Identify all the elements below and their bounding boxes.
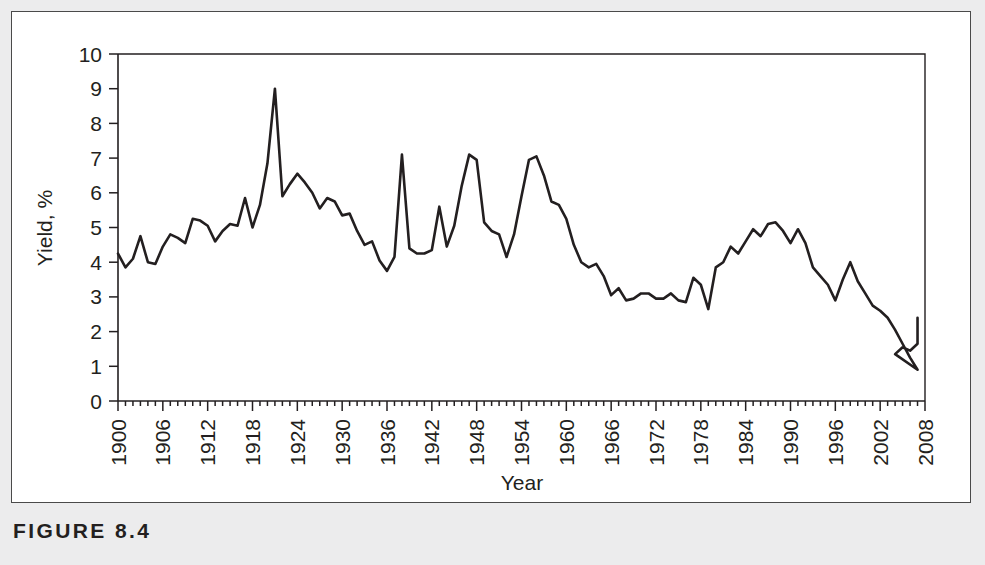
x-tick-label: 1996 (824, 419, 847, 466)
x-tick-label: 1990 (779, 419, 802, 466)
y-tick-label: 7 (90, 147, 102, 170)
y-axis: 012345678910 (79, 43, 118, 413)
x-tick-label: 1942 (420, 419, 443, 466)
data-series-yield (118, 89, 918, 370)
x-tick-label: 1960 (555, 419, 578, 466)
x-tick-label: 1948 (465, 419, 488, 466)
x-tick-label: 1900 (107, 419, 130, 466)
x-tick-label: 1966 (600, 419, 623, 466)
y-tick-label: 5 (90, 216, 102, 239)
y-tick-label: 3 (90, 285, 102, 308)
y-tick-label: 1 (90, 355, 102, 378)
y-tick-label: 2 (90, 320, 102, 343)
figure-caption: FIGURE 8.4 (13, 519, 151, 543)
x-axis: 1900190619121918192419301936194219481954… (107, 401, 937, 466)
x-tick-label: 1912 (196, 419, 219, 466)
y-tick-label: 0 (90, 390, 102, 413)
y-tick-label: 8 (90, 112, 102, 135)
x-tick-label: 2002 (869, 419, 892, 466)
chart-area: 012345678910 190019061912191819241930193… (12, 12, 972, 504)
x-tick-label: 1936 (376, 419, 399, 466)
plot-frame (118, 54, 925, 401)
x-axis-title: Year (501, 471, 543, 494)
x-tick-label: 1954 (510, 419, 533, 466)
x-tick-label: 1984 (734, 419, 757, 466)
y-tick-label: 9 (90, 77, 102, 100)
x-tick-label: 1924 (286, 419, 309, 466)
x-tick-label: 1978 (689, 419, 712, 466)
x-tick-label: 2008 (914, 419, 937, 466)
y-tick-label: 10 (79, 43, 102, 66)
x-tick-label: 1930 (331, 419, 354, 466)
figure-panel: 012345678910 190019061912191819241930193… (11, 11, 971, 503)
yield-line-chart: 012345678910 190019061912191819241930193… (12, 12, 972, 504)
x-tick-label: 1918 (241, 419, 264, 466)
x-tick-label: 1906 (151, 419, 174, 466)
y-tick-label: 6 (90, 181, 102, 204)
y-axis-title: Yield, % (33, 190, 56, 266)
y-tick-label: 4 (90, 251, 102, 274)
x-tick-label: 1972 (645, 419, 668, 466)
